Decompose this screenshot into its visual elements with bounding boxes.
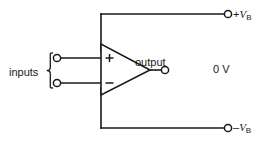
inputs-brace-icon	[47, 53, 52, 88]
circuit-diagram-canvas: inputs output 0 V +VB –VB	[0, 0, 262, 146]
terminal-supply-positive[interactable]	[224, 10, 231, 17]
terminal-supply-negative[interactable]	[224, 124, 231, 131]
supply-positive-label: +VB	[233, 9, 252, 22]
supply-negative-subscript: B	[246, 126, 251, 135]
zero-volt-label: 0 V	[213, 64, 230, 75]
inputs-label: inputs	[9, 67, 38, 78]
opamp-triangle-body	[101, 44, 150, 95]
terminal-input-inverting[interactable]	[53, 79, 60, 86]
supply-positive-subscript: B	[246, 13, 251, 22]
terminal-input-noninverting[interactable]	[53, 54, 60, 61]
output-label: output	[135, 57, 166, 68]
supply-negative-label: –VB	[233, 122, 251, 135]
supply-negative-symbol: V	[239, 121, 246, 133]
